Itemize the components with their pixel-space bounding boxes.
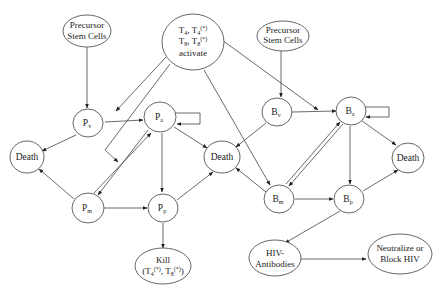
node-label-line2: Stem Cells bbox=[263, 35, 303, 45]
node-label-line1: Precursor bbox=[266, 25, 301, 35]
node-b-activated: Ba bbox=[336, 97, 366, 125]
svg-text:Death: Death bbox=[397, 153, 420, 163]
node-label-line2: Stem Cells bbox=[67, 31, 107, 41]
edge-ba-to-bm bbox=[289, 124, 343, 186]
edge-pm-to-death-left bbox=[39, 169, 74, 199]
edge-bp-to-death-right bbox=[363, 170, 398, 191]
node-b-plasma: Bp bbox=[334, 185, 364, 213]
edge-bv-to-ba bbox=[292, 111, 336, 112]
edge-bp-to-antibodies bbox=[285, 211, 340, 243]
node-hiv-antibodies: HIV- Antibodies bbox=[249, 240, 301, 276]
node-t-cells-activate: T4, T4(*) T8, T8(*) activate bbox=[162, 14, 224, 70]
node-death-right: Death bbox=[392, 143, 424, 173]
immune-flow-diagram: Precursor Stem Cells T4, T4(*) T8, T8(*)… bbox=[0, 0, 442, 290]
edge-pm-to-pa bbox=[94, 133, 151, 193]
node-label-line2: Antibodies bbox=[255, 259, 295, 269]
node-b-memory: Bm bbox=[264, 185, 294, 213]
edge-pv-to-pa bbox=[105, 120, 143, 122]
node-precursor-stem-cells-left: Precursor Stem Cells bbox=[63, 15, 111, 47]
node-p-plasma: Pp bbox=[148, 194, 178, 222]
edge-pa-to-death-center bbox=[174, 127, 207, 148]
edge-ba-self-loop bbox=[365, 107, 389, 117]
node-b-virgin: Bv bbox=[262, 98, 292, 126]
node-death-center: Death bbox=[204, 141, 240, 173]
edge-pp-to-death-center bbox=[177, 172, 213, 200]
node-p-activated: Pa bbox=[144, 102, 176, 132]
edge-ba-to-death-right bbox=[362, 121, 396, 145]
node-p-virgin: Pv bbox=[73, 109, 103, 137]
edge-bm-to-ba bbox=[286, 122, 340, 184]
svg-text:Death: Death bbox=[16, 152, 39, 162]
node-label-line1: HIV- bbox=[266, 248, 284, 258]
node-label-line1: Kill bbox=[156, 255, 171, 265]
node-label-line3: activate bbox=[179, 48, 207, 58]
node-label-line1: Neutralize or bbox=[376, 243, 423, 253]
node-kill: Kill (T4(*), T8(*)) bbox=[135, 248, 191, 284]
edge-pv-to-death-left bbox=[42, 135, 76, 151]
svg-text:Death: Death bbox=[211, 152, 234, 162]
edge-pa-self-loop bbox=[175, 113, 200, 124]
edge-bv-to-death-center bbox=[236, 123, 266, 147]
node-label-line1: Precursor bbox=[70, 20, 105, 30]
node-p-memory: Pm bbox=[72, 193, 104, 223]
edge-bm-to-death-center bbox=[236, 168, 266, 192]
node-death-left: Death bbox=[10, 141, 44, 173]
node-label-line2: Block HIV bbox=[380, 254, 420, 264]
node-precursor-stem-cells-right: Precursor Stem Cells bbox=[257, 21, 309, 51]
node-neutralize-block-hiv: Neutralize or Block HIV bbox=[368, 234, 432, 274]
